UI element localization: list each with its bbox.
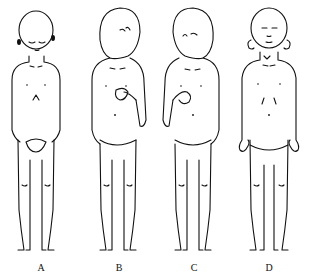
figure-d: D	[230, 0, 308, 265]
figure-c: C	[155, 0, 233, 265]
figure-label-c: C	[155, 262, 233, 273]
child-figure-c-drawing	[155, 0, 233, 260]
figure-label-a: A	[2, 262, 80, 273]
figure-label-d: D	[230, 262, 308, 273]
child-figure-a-drawing	[2, 0, 80, 260]
child-figure-d-drawing	[230, 0, 308, 260]
figure-b: B	[80, 0, 158, 265]
figure-label-b: B	[80, 262, 158, 273]
child-figure-b-drawing	[80, 0, 158, 260]
figure-a: A	[2, 0, 80, 265]
